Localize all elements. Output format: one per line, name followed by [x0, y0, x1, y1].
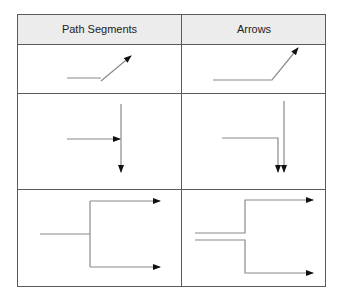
- row3-left-branch-arrows: [40, 201, 160, 267]
- row1-left-segmented-arrow: [67, 56, 131, 81]
- row2-left-t-junction-arrows: [67, 104, 121, 172]
- row1-right-joined-arrow: [213, 48, 298, 80]
- row2-right-parallel-arrows: [222, 101, 284, 172]
- diagram-canvas: [0, 0, 342, 303]
- row3-right-split-arrows: [195, 200, 313, 273]
